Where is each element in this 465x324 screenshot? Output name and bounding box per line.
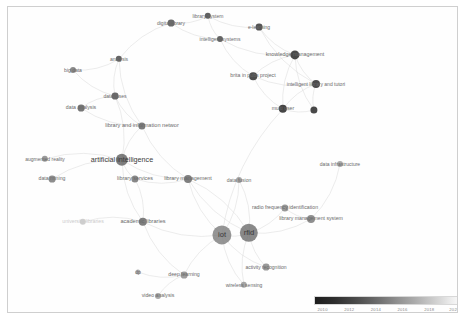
edge (81, 96, 115, 108)
edge (171, 23, 220, 39)
legend-tick: 2020 (449, 307, 458, 312)
edge (249, 219, 311, 233)
graph-node[interactable] (263, 264, 270, 271)
graph-node[interactable] (249, 72, 257, 80)
graph-node[interactable] (256, 24, 263, 31)
edge (138, 272, 184, 277)
edge (311, 164, 340, 219)
edge (122, 160, 143, 222)
graph-node[interactable] (184, 175, 192, 183)
edge (283, 109, 314, 112)
graph-node[interactable] (236, 177, 242, 183)
legend-tick: 2012 (344, 307, 354, 312)
edge (143, 222, 184, 275)
edge (253, 76, 283, 109)
edge (52, 160, 122, 179)
edge (135, 179, 188, 183)
graph-node[interactable] (70, 67, 76, 73)
edge (220, 39, 295, 56)
legend-tick: 2016 (397, 307, 407, 312)
edge (259, 27, 295, 55)
edge (283, 55, 295, 109)
graph-node[interactable] (312, 80, 320, 88)
graph-node[interactable] (49, 176, 56, 183)
network-graph (8, 7, 457, 312)
legend-tick: 2018 (424, 307, 434, 312)
edge (135, 179, 144, 222)
graph-node[interactable] (78, 105, 85, 112)
edge (220, 39, 253, 76)
edge (45, 153, 122, 160)
legend-tick: 2010 (318, 307, 328, 312)
graph-node[interactable] (217, 36, 223, 42)
graph-node[interactable] (307, 215, 315, 223)
legend-tick: 2014 (371, 307, 381, 312)
year-legend: 201020122014201620182020 (314, 296, 458, 313)
graph-node[interactable] (337, 161, 343, 167)
graph-node[interactable] (112, 93, 119, 100)
graph-node[interactable] (181, 272, 188, 279)
graph-node[interactable] (155, 293, 161, 299)
edge (222, 109, 283, 235)
network-visualization-app: digital librarylibrary systemintelligent… (0, 0, 465, 324)
edge (73, 70, 115, 96)
edge (81, 108, 142, 126)
edge (83, 217, 143, 222)
edge (73, 59, 119, 70)
edge (143, 222, 222, 236)
edge (119, 23, 171, 59)
edge (114, 59, 119, 96)
legend-gradient-bar (314, 296, 458, 305)
edge (142, 126, 188, 179)
edge (119, 59, 142, 126)
graph-node[interactable] (168, 20, 175, 27)
edge (115, 96, 124, 160)
network-canvas[interactable]: digital librarylibrary systemintelligent… (7, 6, 458, 313)
edge (158, 275, 184, 296)
edge (115, 96, 142, 126)
edge (171, 16, 208, 23)
edge (283, 84, 316, 109)
edge (208, 16, 259, 27)
